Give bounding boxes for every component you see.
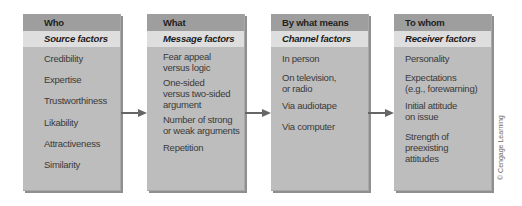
list-item: Via computer <box>282 121 366 132</box>
list-item: Trustworthiness <box>44 95 118 106</box>
box-subheader: Channel factors <box>271 31 368 47</box>
list-item: Strength of preexisting attitudes <box>405 131 489 164</box>
message-factors-box: What Message factors Fear appeal versus … <box>147 14 245 191</box>
list-item: On television, or radio <box>282 72 366 94</box>
box-header: Who <box>23 14 120 31</box>
box-header: To whom <box>394 14 491 31</box>
list-item: Via audiotape <box>282 100 366 111</box>
list-item: Credibility <box>44 53 118 64</box>
list-item: Attractiveness <box>44 138 118 149</box>
arrow-icon <box>368 112 390 114</box>
box-header: By what means <box>271 14 368 31</box>
list-item: Fear appeal versus logic <box>163 51 242 73</box>
copyright-credit: © Cengage Learning <box>497 115 504 180</box>
channel-factors-box: By what means Channel factors In person … <box>271 14 369 191</box>
box-subheader: Receiver factors <box>394 31 491 47</box>
list-item: Expertise <box>44 74 118 85</box>
list-item: Initial attitude on issue <box>405 100 489 122</box>
list-item: Similarity <box>44 159 118 170</box>
list-item: Likability <box>44 117 118 128</box>
list-item: Repetition <box>163 142 242 153</box>
box-subheader: Source factors <box>23 31 120 47</box>
arrow-icon <box>245 112 267 114</box>
box-header: What <box>147 14 244 31</box>
list-item: One-sided versus two-sided argument <box>163 77 242 110</box>
list-item: In person <box>282 53 366 64</box>
source-factors-box: Who Source factors Credibility Expertise… <box>23 14 121 191</box>
receiver-factors-box: To whom Receiver factors Personality Exp… <box>394 14 492 191</box>
list-item: Expectations (e.g., forewarning) <box>405 72 489 94</box>
arrow-icon <box>121 112 143 114</box>
list-item: Number of strong or weak arguments <box>163 114 242 136</box>
list-item: Personality <box>405 53 489 64</box>
box-subheader: Message factors <box>147 31 244 47</box>
